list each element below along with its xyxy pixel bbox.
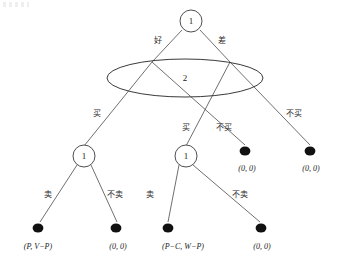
- payoff-label: (0, 0): [302, 164, 320, 173]
- payoff-label: (P, V−P): [24, 242, 53, 251]
- edge-label-e-buy-left: 买: [93, 109, 101, 118]
- edge-label-e-nosell-1: 不卖: [107, 190, 123, 199]
- tree-edge: [84, 62, 152, 146]
- tree-edge: [152, 62, 245, 145]
- edge-label-e-buy-right: 买: [182, 123, 190, 132]
- payoff-label: (P−C, W−P): [162, 242, 204, 251]
- edge-label-e-nobuy-right: 不买: [286, 109, 302, 118]
- terminal-node: [240, 146, 251, 155]
- decision-node-label: 1: [82, 151, 87, 161]
- terminal-node: [305, 146, 316, 155]
- terminal-node: [33, 223, 44, 232]
- game-tree-diagram: 2 111 好差买不买买不买卖不卖卖不卖 (P, V−P)(0, 0)(P−C,…: [0, 0, 339, 262]
- information-set-label: 2: [183, 73, 188, 83]
- decision-nodes-group: 111: [73, 10, 202, 167]
- payoff-label: (0, 0): [238, 164, 256, 173]
- payoff-label: (0, 0): [109, 242, 127, 251]
- edge-label-e-sell-2: 卖: [146, 190, 154, 199]
- edge-label-e-nosell-2: 不卖: [232, 190, 248, 199]
- decision-node-label: 1: [184, 151, 189, 161]
- tree-edge: [186, 62, 230, 146]
- payoff-labels-group: (P, V−P)(0, 0)(P−C, W−P)(0, 0)(0, 0)(0, …: [24, 164, 320, 251]
- edge-label-e-sell-1: 卖: [44, 190, 52, 199]
- payoff-label: (0, 0): [253, 242, 271, 251]
- terminal-node: [256, 223, 267, 232]
- tree-edge: [193, 165, 260, 222]
- terminal-node: [111, 223, 122, 232]
- decision-node-label: 1: [189, 16, 194, 26]
- tree-edge: [230, 62, 310, 145]
- tree-edge: [168, 165, 179, 222]
- edge-label-e-nobuy-left: 不买: [216, 123, 232, 132]
- edge-label-e-good: 好: [154, 35, 162, 45]
- edge-label-e-bad: 差: [218, 35, 226, 45]
- terminal-node: [163, 223, 174, 232]
